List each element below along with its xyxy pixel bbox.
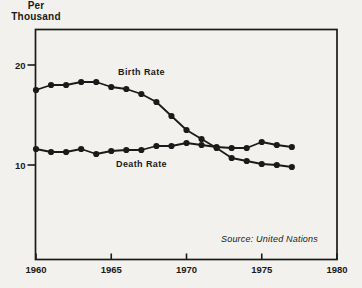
data-point-birth-rate [244,158,250,164]
y-tick-label: 20 [15,60,26,71]
y-tick-label: 10 [15,160,26,171]
y-axis-unit-line2: Thousand [6,12,66,23]
data-point-birth-rate [289,164,295,170]
x-tick-label: 1970 [176,264,197,275]
y-axis-unit-label: Per Thousand [6,1,66,22]
data-point-death-rate [63,149,69,155]
data-point-birth-rate [274,162,280,168]
x-tick-label: 1960 [25,264,46,275]
x-tick-label: 1975 [251,264,273,275]
data-point-birth-rate [78,79,84,85]
data-point-death-rate [153,143,159,149]
data-point-birth-rate [48,82,54,88]
data-point-death-rate [214,144,220,150]
y-axis-unit-line1: Per [6,1,66,12]
data-point-birth-rate [229,155,235,161]
data-point-death-rate [123,147,129,153]
data-point-death-rate [93,151,99,157]
data-point-birth-rate [138,91,144,97]
chart-figure: 196019651970197519801020 Per Thousand Bi… [0,0,362,288]
data-point-birth-rate [259,161,265,167]
data-point-birth-rate [198,136,204,142]
plot-area: 196019651970197519801020 [0,0,362,288]
x-tick-label: 1965 [101,264,123,275]
data-point-death-rate [229,145,235,151]
x-tick-label: 1980 [326,264,347,275]
data-point-birth-rate [33,87,39,93]
data-point-death-rate [138,147,144,153]
data-point-birth-rate [153,99,159,105]
data-point-birth-rate [183,127,189,133]
data-point-death-rate [183,140,189,146]
data-point-death-rate [198,142,204,148]
data-point-death-rate [33,146,39,152]
data-point-birth-rate [168,113,174,119]
data-point-death-rate [168,143,174,149]
data-point-death-rate [274,142,280,148]
data-point-death-rate [244,145,250,151]
source-note: Source: United Nations [221,234,318,244]
data-point-death-rate [108,148,114,154]
data-point-death-rate [259,139,265,145]
series-line-death-rate [36,142,292,154]
data-point-birth-rate [63,82,69,88]
data-point-birth-rate [93,79,99,85]
data-point-death-rate [48,149,54,155]
data-point-birth-rate [123,86,129,92]
series-line-birth-rate [36,82,292,167]
data-point-death-rate [289,144,295,150]
data-point-birth-rate [108,84,114,90]
data-point-death-rate [78,146,84,152]
series-label-birth-rate: Birth Rate [118,67,165,77]
series-label-death-rate: Death Rate [116,159,167,169]
